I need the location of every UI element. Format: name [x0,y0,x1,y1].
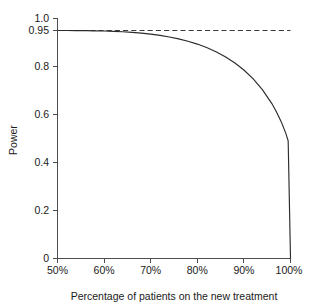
x-tick-label-3: 70% [140,264,161,276]
y-tick-label-4: 0.6 [34,108,49,120]
x-tick-label-4: 80% [187,264,208,276]
x-tick-label-2: 60% [94,264,115,276]
x-tick-marks [58,259,291,264]
x-tick-label-6: 100% [276,264,303,276]
chart-canvas: 1.0 0.95 0.8 0.6 0.4 0.2 0 50% 60% 70% 8… [0,0,315,308]
y-tick-label-5: 0.4 [34,156,49,168]
y-tick-label-1: 1.0 [34,12,49,24]
x-tick-label-5: 90% [233,264,254,276]
y-tick-label-2: 0.95 [29,24,50,36]
y-tick-labels: 1.0 0.95 0.8 0.6 0.4 0.2 0 [29,12,50,264]
y-tick-marks [53,19,58,259]
power-curve-line [58,31,291,259]
power-curve-figure: 1.0 0.95 0.8 0.6 0.4 0.2 0 50% 60% 70% 8… [0,0,315,308]
x-tick-label-1: 50% [47,264,68,276]
x-tick-labels: 50% 60% 70% 80% 90% 100% [47,264,302,276]
y-tick-label-6: 0.2 [34,204,49,216]
y-axis-title: Power [7,125,19,155]
x-axis-title: Percentage of patients on the new treatm… [71,290,278,302]
y-tick-label-7: 0 [43,252,49,264]
y-tick-label-3: 0.8 [34,60,49,72]
